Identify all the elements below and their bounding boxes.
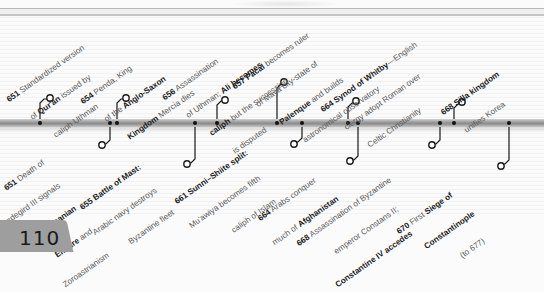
page-number: 110 [19,226,60,250]
